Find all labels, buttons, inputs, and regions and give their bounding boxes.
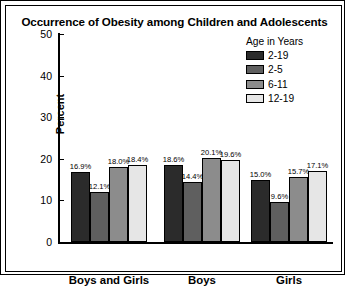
y-tick-label: 50: [26, 28, 52, 40]
legend-title: Age in Years: [246, 36, 334, 47]
bar-value-label: 18.6%: [159, 155, 188, 164]
bar[interactable]: [183, 182, 202, 242]
legend-swatch: [246, 51, 264, 60]
bar-value-label: 15.0%: [246, 170, 275, 179]
legend-item[interactable]: 2-19: [234, 49, 334, 61]
bar-value-label: 17.1%: [303, 161, 332, 170]
chart-panel: Occurrence of Obesity among Children and…: [5, 5, 342, 272]
legend-item[interactable]: 2-5: [234, 64, 334, 76]
bar[interactable]: [221, 160, 240, 242]
bar-value-label: 19.6%: [216, 150, 245, 159]
chart-title: Occurrence of Obesity among Children and…: [6, 15, 343, 28]
legend-swatch: [246, 94, 264, 103]
y-tick-mark: [59, 200, 64, 201]
bar-value-label: 16.9%: [66, 162, 95, 171]
y-tick-mark: [59, 159, 64, 160]
bar[interactable]: [308, 171, 327, 242]
y-tick-label: 30: [26, 111, 52, 123]
legend-label: 12-19: [268, 93, 294, 104]
bar-value-label: 18.4%: [123, 155, 152, 164]
y-tick-mark: [59, 242, 64, 243]
bar[interactable]: [128, 165, 147, 242]
bar[interactable]: [202, 158, 221, 242]
bar[interactable]: [270, 202, 289, 242]
y-tick-mark: [59, 117, 64, 118]
legend-item[interactable]: 12-19: [234, 93, 334, 105]
y-tick-label: 10: [26, 194, 52, 206]
y-tick-label: 0: [26, 236, 52, 248]
x-axis-line: [58, 242, 333, 244]
bar-group: 18.6%14.4%20.1%19.6%: [164, 34, 240, 242]
legend-swatch: [246, 65, 264, 74]
y-tick-mark: [59, 34, 64, 35]
legend-label: 2-19: [268, 50, 288, 61]
y-tick-mark: [59, 76, 64, 77]
bar[interactable]: [289, 177, 308, 242]
y-tick-label: 20: [26, 153, 52, 165]
legend-label: 6-11: [268, 79, 288, 90]
y-tick-label: 40: [26, 70, 52, 82]
legend: Age in Years 2-192-56-1112-19: [234, 36, 334, 107]
legend-swatch: [246, 80, 264, 89]
x-category-label: Girls: [233, 274, 345, 286]
bar[interactable]: [109, 167, 128, 242]
y-axis-title: Percent: [54, 79, 66, 149]
bar[interactable]: [251, 180, 270, 242]
bar[interactable]: [90, 192, 109, 242]
legend-item[interactable]: 6-11: [234, 78, 334, 90]
legend-label: 2-5: [268, 64, 283, 75]
legend-entries: 2-192-56-1112-19: [234, 49, 334, 105]
bar-group: 16.9%12.1%18.0%18.4%: [71, 34, 147, 242]
